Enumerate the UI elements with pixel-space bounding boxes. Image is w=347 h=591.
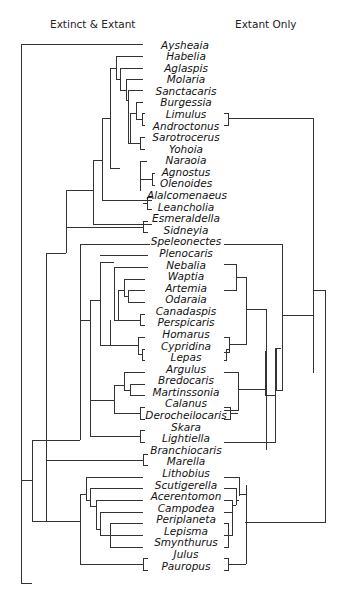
taxon-label: Derocheilocaris (126, 409, 246, 421)
taxon-label: Skara (126, 421, 246, 433)
taxon-label: Waptia (126, 270, 246, 282)
taxon-label: Canadaspis (126, 305, 246, 317)
taxon-label: Argulus (126, 363, 246, 375)
taxon-label: Sidneyia (126, 224, 246, 236)
taxon-label: Agnostus (126, 166, 246, 178)
taxon-label: Pauropus (126, 560, 246, 572)
taxon-label: Branchiocaris (126, 444, 246, 456)
taxon-label: Julus (126, 548, 246, 560)
taxon-label: Scutigerella (126, 479, 246, 491)
taxon-label: Acerentomon (126, 490, 246, 502)
taxon-label: Lithobius (126, 467, 246, 479)
taxon-label: Habelia (126, 50, 246, 62)
taxon-label: Smynthurus (126, 536, 246, 548)
taxon-label: Nebalia (126, 259, 246, 271)
taxon-label: Molaria (126, 73, 246, 85)
taxon-label: Artemia (126, 282, 246, 294)
taxon-label: Androctonus (126, 120, 246, 132)
taxon-label: Cypridina (126, 340, 246, 352)
taxon-label: Martinssonia (126, 386, 246, 398)
taxon-label: Naraoia (126, 154, 246, 166)
taxon-label: Speleonectes (126, 235, 246, 247)
taxon-label: Perspicaris (126, 316, 246, 328)
taxon-label: Plenocaris (126, 247, 246, 259)
taxon-label: Limulus (126, 108, 246, 120)
taxon-label: Homarus (126, 328, 246, 340)
taxon-label: Aglaspis (126, 62, 246, 74)
taxon-label: Leancholia (126, 201, 246, 213)
taxon-label: Aysheaia (125, 39, 245, 51)
taxon-label: Campodea (126, 502, 246, 514)
taxon-label: Bredocaris (126, 374, 246, 386)
taxon-label: Calanus (126, 397, 246, 409)
taxon-label: Yohoia (126, 143, 246, 155)
taxon-label: Marella (126, 455, 246, 467)
taxon-label: Lepisma (126, 525, 246, 537)
taxon-label: Lightiella (126, 432, 246, 444)
taxon-label: Esmeraldella (126, 212, 246, 224)
taxon-label: Olenoides (126, 177, 246, 189)
taxon-label: Periplaneta (126, 513, 246, 525)
taxon-label: Sarotrocerus (126, 131, 246, 143)
taxon-label: Odaraia (126, 293, 246, 305)
taxon-label: Lepas (126, 351, 246, 363)
taxon-label: Sanctacaris (126, 85, 246, 97)
taxon-label: Alalcomenaeus (127, 189, 247, 201)
taxon-label: Burgessia (126, 96, 246, 108)
